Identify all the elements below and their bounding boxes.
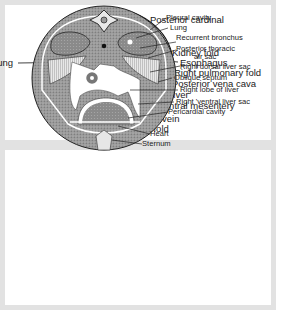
label-posterior-thoracic-air-sac-line2: air sac: [194, 53, 216, 61]
label-pleural-cavity: Pleural cavity: [166, 14, 211, 22]
label-right-ventral-liver-sac: Right 'ventral liver sac: [176, 98, 250, 106]
label-recurrent-bronchus: Recurrent bronchus: [176, 34, 243, 42]
label-sternum: Sternum: [142, 140, 171, 148]
label-heart: Heart: [150, 130, 169, 138]
label-right-dorsal-liver-sac: Right dorsal liver sac: [180, 63, 250, 71]
label-right-lobe-of-liver: Right lobe of liver: [180, 86, 239, 94]
figure-bottom-panel: Pleural cavity Lung Recurrent bronchus P…: [0, 145, 276, 310]
label-lung: Lung: [170, 24, 187, 32]
label-oblique-septum: Oblique septum: [174, 74, 227, 82]
label-pericardial-cavity: Pericardial cavity: [168, 108, 225, 116]
